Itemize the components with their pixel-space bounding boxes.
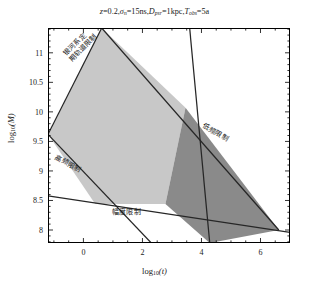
y-tick-label: 10.5 <box>16 78 43 87</box>
y-tick-label: 9.5 <box>16 137 43 146</box>
figure-container: z=0.2,σn=15ns,Dpsr=1kpc,Tobs=5a 024688.5… <box>0 0 309 292</box>
y-tick-label: 11 <box>16 48 43 57</box>
y-tick-label: 10 <box>16 107 43 116</box>
x-axis-label: log10(t) <box>0 266 309 276</box>
x-tick-label: 0 <box>81 248 85 257</box>
amplitude-limit-label: 幅度限制 <box>112 206 141 216</box>
title-sigma-value: =15ns, <box>127 7 149 16</box>
title-d-subscript: psr <box>155 10 162 16</box>
title-z-value: =0.2, <box>103 7 120 16</box>
title-t-value: =5a <box>197 7 209 16</box>
y-tick-label: 8 <box>16 226 43 235</box>
y-axis-label-sub: 10 <box>10 126 16 132</box>
x-axis-label-base: log <box>142 266 153 276</box>
y-tick-label: 8.5 <box>16 196 43 205</box>
plot-title: z=0.2,σn=15ns,Dpsr=1kpc,Tobs=5a <box>0 6 309 19</box>
x-tick-label: 6 <box>258 248 262 257</box>
title-t-subscript: obs <box>189 10 197 16</box>
plot-canvas <box>48 28 290 243</box>
y-tick-label: 9 <box>16 166 43 175</box>
plot-area <box>48 28 290 243</box>
y-axis-label-base: log <box>6 132 16 143</box>
x-tick-label: 4 <box>199 248 203 257</box>
y-axis-label: log10(M) <box>6 98 16 158</box>
title-d-value: =1kpc, <box>162 7 185 16</box>
x-axis-label-arg: (t) <box>159 266 167 276</box>
x-tick-label: 2 <box>140 248 144 257</box>
y-axis-label-arg: (M) <box>6 113 16 126</box>
